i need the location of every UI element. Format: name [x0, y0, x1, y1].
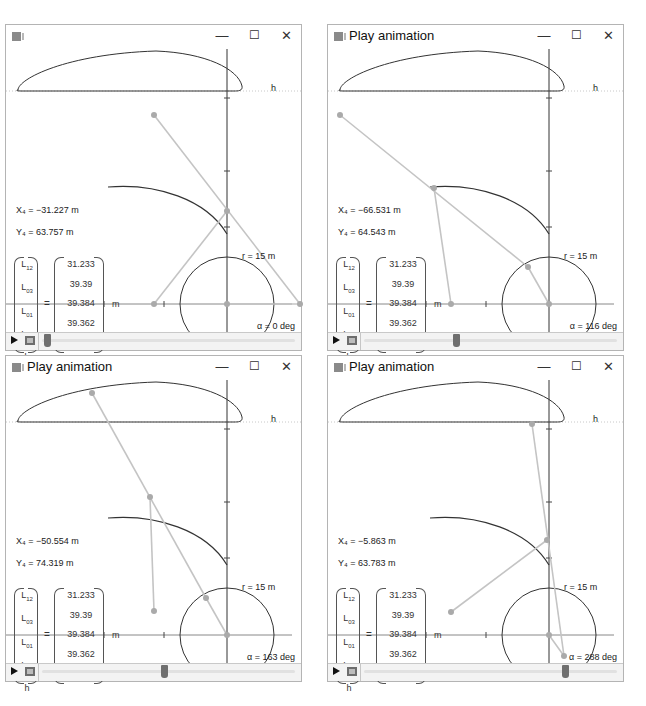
frame-slider-thumb[interactable] [453, 334, 460, 347]
title-bar[interactable]: Play animation — ☐ ✕ [328, 25, 623, 49]
alpha-readout: α = 0 deg [257, 321, 295, 331]
matrix-name: L01 [338, 633, 360, 656]
radius-label: r = 15 m [564, 251, 597, 261]
equals-sign: = [366, 298, 372, 309]
animation-window: — ☐ ✕ h r = 15 m X₄ = −31.227 m Y₄ = 63.… [5, 24, 302, 351]
minimize-button[interactable]: — [535, 359, 553, 374]
matrix-value: 39.384 [378, 294, 428, 314]
h-label: h [271, 83, 276, 93]
matrix-value: 39.384 [56, 625, 106, 645]
film-icon[interactable] [25, 667, 35, 676]
frame-slider-thumb[interactable] [44, 334, 51, 347]
play-icon[interactable] [11, 336, 18, 344]
x4-readout: X₄ = −5.863 m [338, 536, 396, 546]
matrix-value: 31.233 [378, 586, 428, 606]
equals-sign: = [44, 629, 50, 640]
close-button[interactable]: ✕ [599, 28, 617, 43]
window-title: Play animation [349, 359, 434, 374]
animation-toolbar [6, 663, 301, 681]
matrix-name: L12 [338, 255, 360, 278]
app-icon [334, 363, 343, 372]
frame-slider-thumb[interactable] [161, 665, 168, 678]
window-title: Play animation [27, 359, 112, 374]
maximize-button[interactable]: ☐ [567, 359, 585, 373]
matrix-names: L12L03L01L04h [338, 255, 360, 368]
matrix-name: L12 [16, 255, 38, 278]
film-icon[interactable] [347, 336, 357, 345]
h-label: h [593, 83, 598, 93]
frame-slider-thumb[interactable] [562, 665, 569, 678]
film-icon[interactable] [347, 667, 357, 676]
equals-sign: = [366, 629, 372, 640]
play-icon[interactable] [333, 336, 340, 344]
unit-label: m [434, 630, 442, 640]
maximize-button[interactable]: ☐ [245, 359, 263, 373]
alpha-readout: α = 288 deg [569, 652, 617, 662]
matrix-name: L12 [338, 586, 360, 609]
animation-window: Play animation — ☐ ✕ h r = 15 m X₄ = −50… [5, 355, 302, 682]
minimize-button[interactable]: — [213, 28, 231, 43]
matrix-value: 39.39 [378, 275, 428, 295]
unit-label: m [434, 299, 442, 309]
x4-readout: X₄ = −50.554 m [16, 536, 79, 546]
app-icon [12, 363, 21, 372]
animation-window: Play animation — ☐ ✕ h r = 15 m X₄ = −66… [327, 24, 624, 351]
app-icon [12, 32, 21, 41]
matrix-name: L01 [16, 302, 38, 325]
h-label: h [271, 414, 276, 424]
coupler-curve-top [339, 382, 564, 422]
coupler-curve-mid [430, 186, 549, 234]
close-button[interactable]: ✕ [277, 359, 295, 374]
animation-toolbar [328, 663, 623, 681]
divider [38, 333, 39, 350]
matrix-value: 31.233 [56, 586, 106, 606]
radius-label: r = 15 m [242, 251, 275, 261]
frame-slider-track[interactable] [364, 339, 617, 342]
radius-label: r = 15 m [564, 582, 597, 592]
matrix-name: L01 [16, 633, 38, 656]
coupler-curve-mid [108, 186, 227, 234]
matrix-name: L03 [338, 609, 360, 632]
frame-slider-track[interactable] [42, 339, 295, 342]
frame-slider-track[interactable] [364, 670, 617, 673]
matrix-name: L03 [338, 278, 360, 301]
y4-readout: Y₄ = 64.543 m [338, 227, 395, 237]
alpha-readout: α = 163 deg [247, 652, 295, 662]
title-bar[interactable]: Play animation — ☐ ✕ [6, 356, 301, 380]
matrix-value: 39.362 [56, 645, 106, 665]
title-bar[interactable]: Play animation — ☐ ✕ [328, 356, 623, 380]
equals-sign: = [44, 298, 50, 309]
coupler-curve-top [17, 382, 242, 422]
alpha-readout: α = 116 deg [570, 321, 617, 331]
film-icon[interactable] [25, 336, 35, 345]
title-bar[interactable]: — ☐ ✕ [6, 25, 301, 49]
matrix-value: 39.362 [378, 314, 428, 334]
unit-label: m [112, 299, 120, 309]
close-button[interactable]: ✕ [599, 359, 617, 374]
matrix-name: L12 [16, 586, 38, 609]
coupler-curve-top [17, 51, 242, 91]
coupler-curve-mid [430, 517, 549, 565]
close-button[interactable]: ✕ [277, 28, 295, 43]
matrix-names: L12L03L01L04h [16, 255, 38, 368]
matrix-value: 39.384 [378, 625, 428, 645]
y4-readout: Y₄ = 74.319 m [16, 558, 73, 568]
minimize-button[interactable]: — [535, 28, 553, 43]
divider [38, 664, 39, 681]
divider [360, 664, 361, 681]
matrix-value: 39.362 [378, 645, 428, 665]
play-icon[interactable] [333, 667, 340, 675]
minimize-button[interactable]: — [213, 359, 231, 374]
matrix-name: L03 [16, 609, 38, 632]
h-label: h [593, 414, 598, 424]
play-icon[interactable] [11, 667, 18, 675]
frame-slider-track[interactable] [42, 670, 295, 673]
matrix-value: 39.362 [56, 314, 106, 334]
maximize-button[interactable]: ☐ [245, 28, 263, 42]
matrix-name: h [338, 679, 360, 699]
coupler-curve-mid [108, 517, 227, 565]
matrix-value: 39.39 [56, 606, 106, 626]
maximize-button[interactable]: ☐ [567, 28, 585, 42]
app-icon [334, 32, 343, 41]
coupler-curve-top [339, 51, 564, 91]
